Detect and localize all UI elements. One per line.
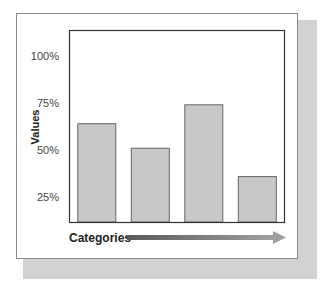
bar-2 [131, 148, 169, 222]
y-tick-label: 25% [37, 191, 59, 203]
y-tick-label: 75% [37, 97, 59, 109]
y-axis-label: Values [29, 110, 41, 145]
bar-3 [185, 105, 223, 222]
y-tick-label: 50% [37, 144, 59, 156]
x-axis-arrow-shaft [127, 235, 275, 240]
bar-chart: 25%50%75%100% Values Categories [0, 0, 329, 287]
x-axis-arrow-head [273, 231, 286, 244]
bar-4 [238, 177, 276, 222]
y-tick-label: 100% [31, 50, 59, 62]
x-axis-arrow [127, 231, 286, 244]
bar-1 [78, 124, 116, 222]
x-axis-label: Categories [69, 231, 131, 245]
